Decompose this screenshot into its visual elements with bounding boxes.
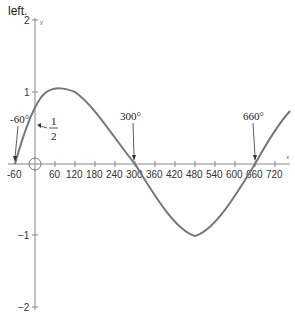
- annotation-neg60: -60°: [10, 113, 29, 125]
- x-axis-name: x: [286, 154, 289, 160]
- annotation-660: 660°: [243, 110, 264, 122]
- fraction-denominator: 2: [51, 130, 57, 142]
- x-tick-label: 720: [266, 169, 283, 180]
- x-tick-label: 360: [146, 169, 163, 180]
- y-tick-label: 2: [24, 15, 30, 26]
- sine-chart: y x 2 1 −1 −2 -60 60 120 180 240 300 360…: [0, 0, 295, 320]
- x-tick-label: 240: [106, 169, 123, 180]
- y-tick-label: −1: [18, 230, 30, 241]
- annotation-300: 300°: [120, 110, 141, 122]
- x-tick-label: 60: [49, 169, 61, 180]
- x-tick-label: 180: [86, 169, 103, 180]
- y-axis-name: y: [40, 19, 43, 25]
- x-tick-label: 480: [186, 169, 203, 180]
- arrow-660: [253, 123, 255, 156]
- x-tick-label: 600: [226, 169, 243, 180]
- x-tick-label: 420: [166, 169, 183, 180]
- x-tick-label: 540: [206, 169, 223, 180]
- fraction-numerator: 1: [51, 115, 57, 127]
- y-tick-label: 1: [24, 87, 30, 98]
- x-tick-label: -60: [7, 169, 22, 180]
- arrow-300: [133, 123, 134, 156]
- x-tick-label: 120: [66, 169, 83, 180]
- arrow-half: [40, 126, 47, 128]
- arrowhead-icon: [37, 123, 41, 128]
- y-tick-label: −2: [18, 302, 30, 313]
